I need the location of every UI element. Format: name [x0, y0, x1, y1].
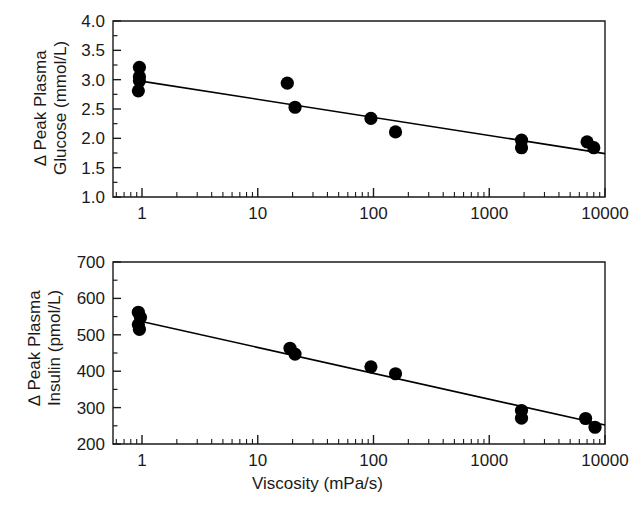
x-axis-tick-label: 1000	[470, 204, 508, 223]
y-axis-tick-label: 3.5	[81, 41, 105, 60]
data-point	[364, 112, 377, 125]
y-axis-tick-label: 300	[77, 399, 105, 418]
x-axis-tick-label: 1000	[470, 451, 508, 470]
x-axis-tick-label: 1	[137, 451, 146, 470]
chart-panel-glucose: ∆ Peak Plasma Glucose (mmol/L) 1.01.52.0…	[0, 0, 635, 245]
x-axis-tick-label: 100	[359, 204, 387, 223]
data-point	[389, 125, 402, 138]
x-axis-tick-label: 1	[137, 204, 146, 223]
y-axis-tick-label: 200	[77, 435, 105, 454]
data-point	[133, 323, 146, 336]
y-axis-tick-label: 3.0	[81, 71, 105, 90]
y-axis-tick-label: 600	[77, 289, 105, 308]
data-point	[587, 141, 600, 154]
x-axis-tick-label: 10	[248, 451, 267, 470]
data-point	[515, 141, 528, 154]
y-axis-tick-label: 4.0	[81, 12, 105, 31]
y-axis-tick-label: 2.5	[81, 100, 105, 119]
plot-area-insulin: 200300400500600700110100100010000	[0, 245, 635, 505]
data-point	[364, 360, 377, 373]
y-axis-tick-label: 1.5	[81, 159, 105, 178]
y-axis-tick-label: 700	[77, 253, 105, 272]
data-point	[132, 84, 145, 97]
axes-frame	[113, 21, 605, 197]
y-axis-tick-label: 400	[77, 362, 105, 381]
data-point	[281, 77, 294, 90]
x-axis-tick-label: 10000	[581, 204, 628, 223]
chart-panel-insulin: ∆ Peak Plasma Insulin (pmol/L) 200300400…	[0, 245, 635, 505]
data-point	[288, 101, 301, 114]
x-axis-tick-label: 100	[359, 451, 387, 470]
data-point	[389, 367, 402, 380]
x-axis-tick-label: 10	[248, 204, 267, 223]
y-axis-tick-label: 500	[77, 326, 105, 345]
plot-area-glucose: 1.01.52.02.53.03.54.0110100100010000	[0, 0, 635, 245]
axes-frame	[113, 262, 605, 444]
x-axis-tick-label: 10000	[581, 451, 628, 470]
y-axis-tick-label: 1.0	[81, 188, 105, 207]
data-point	[588, 421, 601, 434]
y-axis-tick-label: 2.0	[81, 129, 105, 148]
data-point	[515, 412, 528, 425]
figure-container: ∆ Peak Plasma Glucose (mmol/L) 1.01.52.0…	[0, 0, 635, 505]
data-point	[288, 347, 301, 360]
x-axis-label: Viscosity (mPa/s)	[0, 474, 635, 494]
